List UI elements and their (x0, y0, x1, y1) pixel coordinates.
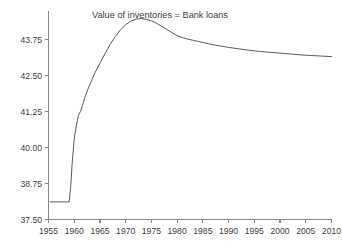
y-axis-ticks: 37.5038.7540.0041.2542.5043.75 (20, 35, 48, 225)
x-tick-label: 1960 (65, 226, 84, 236)
y-tick-label: 38.75 (20, 179, 42, 189)
line-chart: 37.5038.7540.0041.2542.5043.75 195519601… (0, 0, 342, 249)
data-series-group (50, 19, 331, 202)
y-tick-label: 41.25 (20, 107, 42, 117)
x-tick-label: 2010 (322, 226, 341, 236)
x-tick-label: 1965 (90, 226, 109, 236)
chart-axes (49, 11, 332, 220)
x-tick-label: 2000 (270, 226, 289, 236)
x-tick-label: 1955 (39, 226, 58, 236)
y-tick-label: 43.75 (20, 35, 42, 45)
y-tick-label: 42.50 (20, 71, 42, 81)
chart-container: 37.5038.7540.0041.2542.5043.75 195519601… (0, 0, 342, 249)
x-axis-ticks: 1955196019651970197519801985199019952000… (39, 220, 341, 236)
x-tick-label: 1975 (142, 226, 161, 236)
x-tick-label: 1990 (219, 226, 238, 236)
x-tick-label: 1985 (193, 226, 212, 236)
y-tick-label: 40.00 (20, 143, 42, 153)
x-tick-label: 1995 (245, 226, 264, 236)
y-tick-label: 37.50 (20, 215, 42, 225)
series-line (50, 19, 331, 202)
x-tick-label: 1980 (168, 226, 187, 236)
x-tick-label: 2005 (296, 226, 315, 236)
chart-title: Value of inventories = Bank loans (92, 10, 228, 20)
x-tick-label: 1970 (116, 226, 135, 236)
